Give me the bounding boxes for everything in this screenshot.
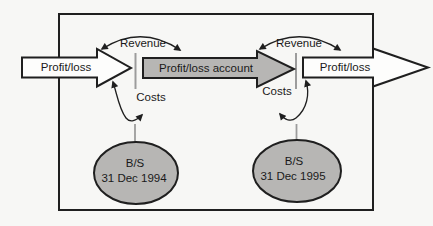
- revenue-label-1995: Revenue: [276, 37, 322, 49]
- balance-sheet-1994-abbrev: B/S: [126, 157, 145, 169]
- profit-loss-flow-diagram: Profit/loss Profit/loss account Profit/l…: [0, 0, 433, 226]
- profit-loss-account-label: Profit/loss account: [159, 62, 254, 74]
- balance-sheet-1994-date: 31 Dec 1994: [101, 172, 167, 184]
- costs-label-1994: Costs: [136, 91, 166, 103]
- profit-loss-flow-figure: Profit/loss Profit/loss account Profit/l…: [0, 0, 433, 226]
- profit-loss-incoming-label: Profit/loss: [41, 61, 92, 73]
- balance-sheet-1995-abbrev: B/S: [285, 155, 304, 167]
- costs-label-1995: Costs: [262, 85, 292, 97]
- balance-sheet-1995-date: 31 Dec 1995: [260, 170, 325, 182]
- revenue-label-1994: Revenue: [120, 37, 166, 49]
- profit-loss-outgoing-label: Profit/loss: [320, 61, 371, 73]
